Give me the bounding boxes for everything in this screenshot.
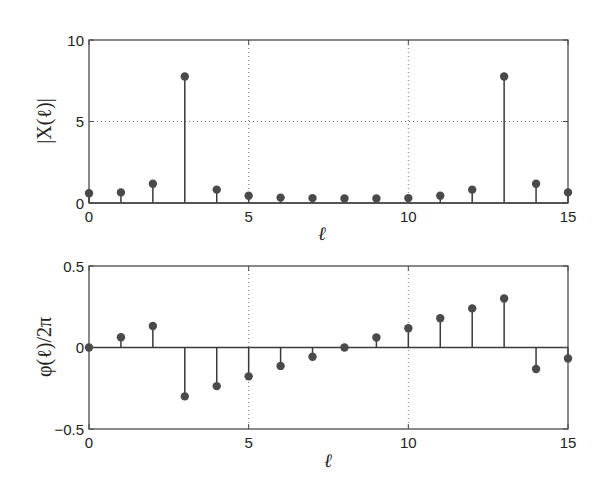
phase-stem-marker [213,382,221,390]
phase-stem-marker [117,333,125,341]
magnitude-stem-marker [436,191,444,199]
magnitude-stem-marker [308,194,316,202]
magnitude-ylabel: |X(ℓ)| [33,98,56,143]
magnitude-stem-marker [276,193,284,201]
phase-stem-marker [244,372,252,380]
magnitude-stem-marker [532,180,540,188]
magnitude-xtick-10: 10 [400,208,417,225]
magnitude-xtick-0: 0 [85,208,93,225]
magnitude-stem-marker [213,185,221,193]
phase-stem-marker [308,353,316,361]
magnitude-axes-frame [89,40,568,203]
phase-stem-marker [468,304,476,312]
phase-xtick-0: 0 [85,434,93,451]
magnitude-stem-marker [181,72,189,80]
magnitude-ytick-5: 5 [76,113,84,130]
phase-ylabel: φ(ℓ)/2π [33,317,56,377]
magnitude-stem-marker [500,72,508,80]
magnitude-xtick-15: 15 [560,208,577,225]
magnitude-xtick-5: 5 [245,208,253,225]
phase-ytick-neg0.5: −0.5 [54,421,84,438]
magnitude-plot: 0 5 10 0 5 10 15 ℓ |X(ℓ)| [33,32,576,244]
magnitude-stem-marker [372,194,380,202]
phase-stems [85,294,572,400]
phase-stem-marker [340,343,348,351]
magnitude-stem-marker [117,188,125,196]
phase-stem-marker [500,294,508,302]
phase-stem-marker [149,322,157,330]
phase-xtick-10: 10 [400,434,417,451]
magnitude-ytick-0: 0 [76,195,84,212]
phase-xtick-5: 5 [245,434,253,451]
phase-stem-marker [276,362,284,370]
phase-xtick-15: 15 [560,434,577,451]
magnitude-ytick-10: 10 [67,32,84,49]
magnitude-stem-marker [340,194,348,202]
phase-stem-marker [372,333,380,341]
phase-stem-marker [181,392,189,400]
magnitude-grid [89,40,568,203]
phase-stem-marker [436,314,444,322]
magnitude-stems [85,72,572,203]
phase-xlabel: ℓ [324,450,332,471]
magnitude-xlabel: ℓ [318,223,326,244]
magnitude-stem-marker [149,180,157,188]
phase-stem-marker [532,365,540,373]
magnitude-ticks [89,40,568,203]
figure: 0 5 10 0 5 10 15 ℓ |X(ℓ)| −0.5 0 0.5 0 5… [0,0,604,485]
phase-plot: −0.5 0 0.5 0 5 10 15 ℓ φ(ℓ)/2π [33,258,576,471]
phase-ytick-0: 0 [76,339,84,356]
magnitude-stem-marker [468,185,476,193]
phase-ytick-0.5: 0.5 [63,258,84,275]
phase-stem-marker [404,324,412,332]
